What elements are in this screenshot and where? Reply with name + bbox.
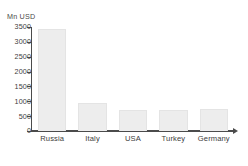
x-axis-tick-label: USA — [113, 134, 153, 143]
bar — [78, 103, 106, 131]
bar-chart: Mn USD 0500100015002000250030003500 Russ… — [0, 0, 248, 166]
x-axis-tick-label: Russia — [32, 134, 72, 143]
y-axis-unit-label: Mn USD — [7, 12, 35, 21]
y-axis-tick-mark — [27, 131, 32, 132]
plot-area — [32, 27, 234, 131]
bar — [38, 29, 66, 132]
bar — [119, 110, 147, 131]
x-axis-tick-label: Italy — [72, 134, 112, 143]
bar — [200, 109, 228, 131]
x-axis-tick-label: Turkey — [153, 134, 193, 143]
chart-title — [0, 0, 248, 3]
bar — [159, 110, 187, 131]
x-axis-tick-label: Germany — [194, 134, 234, 143]
